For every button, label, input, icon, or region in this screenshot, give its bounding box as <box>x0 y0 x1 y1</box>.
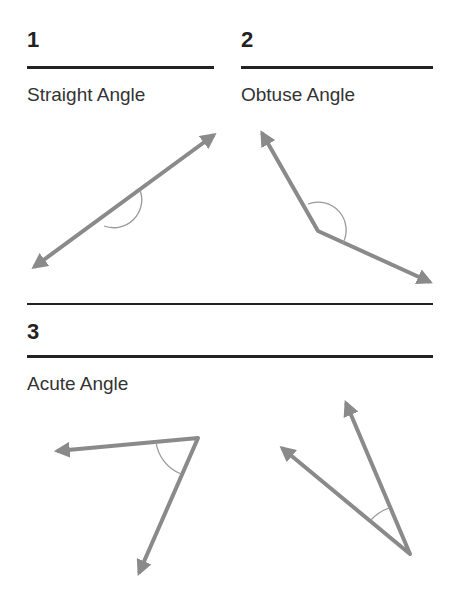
acute-angle-figure-1 <box>57 438 198 573</box>
acute-angle-figure-2 <box>282 403 410 554</box>
straight-angle-figure <box>34 135 214 267</box>
obtuse-angle-figure <box>262 133 430 282</box>
angle-diagrams <box>0 0 454 603</box>
